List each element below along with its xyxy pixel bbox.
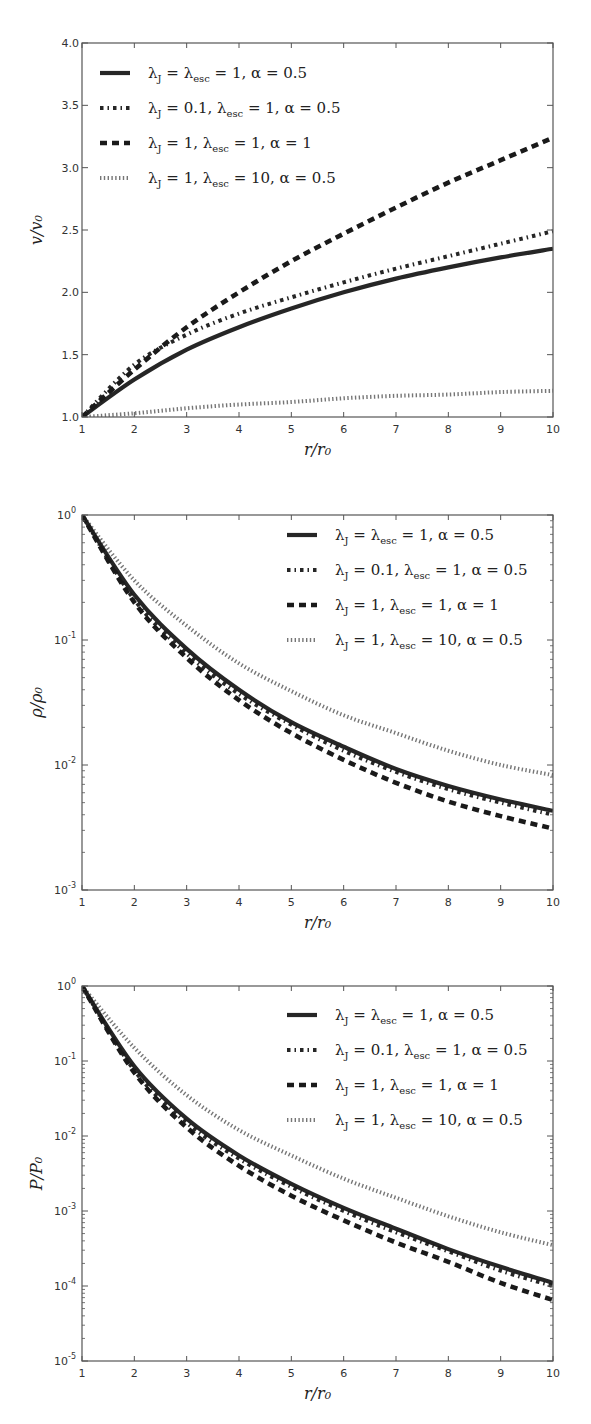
x-tick-label: 3 [183, 1367, 190, 1380]
density-chart: 12345678910r/r₀10010-110-210-3ρ/ρ₀λJ = λ… [0, 480, 591, 940]
x-axis-label: r/r₀ [304, 1384, 332, 1403]
y-tick-label: 10-2 [54, 756, 76, 772]
x-tick-label: 2 [131, 423, 138, 436]
x-tick-label: 5 [288, 1367, 295, 1380]
x-tick-label: 8 [445, 1367, 452, 1380]
legend-label: λJ = 1, λesc = 1, α = 1 [335, 1076, 499, 1096]
curve-dashed [82, 986, 553, 1300]
x-tick-label: 5 [288, 896, 295, 909]
x-tick-label: 6 [340, 423, 347, 436]
curve-dotted [82, 391, 553, 417]
x-tick-label: 10 [546, 1367, 560, 1380]
x-tick-label: 7 [393, 1367, 400, 1380]
y-tick-label: 10-2 [54, 1127, 76, 1143]
x-tick-label: 3 [183, 896, 190, 909]
y-tick-label: 10-1 [54, 1052, 76, 1068]
y-tick-label: 10-1 [54, 631, 76, 647]
x-tick-label: 7 [393, 423, 400, 436]
x-tick-label: 2 [131, 896, 138, 909]
x-tick-label: 7 [393, 896, 400, 909]
velocity-plot-svg: 12345678910r/r₀1.01.52.02.53.03.54.0v/v₀… [0, 0, 591, 480]
legend-label: λJ = λesc = 1, α = 0.5 [335, 526, 494, 546]
legend-label: λJ = 1, λesc = 1, α = 1 [148, 134, 312, 154]
x-tick-label: 1 [79, 1367, 86, 1380]
y-axis: 10010-110-210-310-410-5P/P₀ [27, 977, 553, 1368]
y-axis-label: ρ/ρ₀ [27, 687, 46, 719]
y-tick-label: 10-3 [54, 1202, 76, 1218]
curve-solid [82, 249, 553, 417]
legend-label: λJ = 1, λesc = 10, α = 0.5 [335, 1111, 523, 1131]
x-tick-label: 8 [445, 423, 452, 436]
x-tick-label: 5 [288, 423, 295, 436]
y-tick-label: 4.0 [62, 37, 80, 50]
legend-label: λJ = λesc = 1, α = 0.5 [335, 1006, 494, 1026]
y-tick-label: 2.5 [62, 224, 80, 237]
legend-label: λJ = 1, λesc = 1, α = 1 [335, 596, 499, 616]
y-tick-label: 1.0 [62, 411, 80, 424]
x-tick-label: 9 [497, 1367, 504, 1380]
x-tick-label: 4 [236, 423, 243, 436]
x-tick-label: 1 [79, 896, 86, 909]
x-tick-label: 4 [236, 896, 243, 909]
velocity-chart: 12345678910r/r₀1.01.52.02.53.03.54.0v/v₀… [0, 0, 591, 480]
y-tick-label: 10-4 [54, 1277, 76, 1293]
x-tick-label: 6 [340, 1367, 347, 1380]
x-tick-label: 6 [340, 896, 347, 909]
x-tick-label: 3 [183, 423, 190, 436]
legend: λJ = λesc = 1, α = 0.5λJ = 0.1, λesc = 1… [287, 1006, 527, 1131]
x-tick-label: 8 [445, 896, 452, 909]
pressure-chart: 12345678910r/r₀10010-110-210-310-410-5P/… [0, 940, 591, 1424]
curve-solid [82, 986, 553, 1283]
curve-solid [82, 515, 553, 811]
legend-label: λJ = λesc = 1, α = 0.5 [148, 64, 307, 84]
legend: λJ = λesc = 1, α = 0.5λJ = 0.1, λesc = 1… [287, 526, 527, 651]
y-tick-label: 1.5 [62, 349, 80, 362]
curve-dashdot [82, 986, 553, 1286]
x-axis-label: r/r₀ [304, 913, 332, 932]
x-axis-label: r/r₀ [304, 440, 332, 459]
x-tick-label: 1 [79, 423, 86, 436]
pressure-plot-svg: 12345678910r/r₀10010-110-210-310-410-5P/… [0, 940, 591, 1424]
x-tick-label: 2 [131, 1367, 138, 1380]
y-tick-label: 10-3 [54, 881, 76, 897]
x-tick-label: 10 [546, 423, 560, 436]
y-tick-label: 3.0 [62, 162, 80, 175]
y-axis-label: P/P₀ [27, 1156, 46, 1191]
legend-label: λJ = 0.1, λesc = 1, α = 0.5 [335, 561, 527, 581]
legend-label: λJ = 0.1, λesc = 1, α = 0.5 [335, 1041, 527, 1061]
y-tick-label: 3.5 [62, 99, 80, 112]
x-tick-label: 10 [546, 896, 560, 909]
y-tick-label: 2.0 [62, 286, 80, 299]
legend-label: λJ = 1, λesc = 10, α = 0.5 [148, 169, 336, 189]
y-axis-label: v/v₀ [27, 214, 46, 244]
curves-group [82, 986, 553, 1300]
legend-label: λJ = 0.1, λesc = 1, α = 0.5 [148, 99, 340, 119]
legend: λJ = λesc = 1, α = 0.5λJ = 0.1, λesc = 1… [100, 64, 340, 189]
y-axis: 1.01.52.02.53.03.54.0v/v₀ [27, 37, 553, 424]
x-tick-label: 9 [497, 423, 504, 436]
legend-label: λJ = 1, λesc = 10, α = 0.5 [335, 631, 523, 651]
y-tick-label: 100 [57, 506, 76, 522]
x-tick-label: 9 [497, 896, 504, 909]
y-tick-label: 100 [57, 977, 76, 993]
density-plot-svg: 12345678910r/r₀10010-110-210-3ρ/ρ₀λJ = λ… [0, 480, 591, 940]
curve-dashdot [82, 515, 553, 815]
x-tick-label: 4 [236, 1367, 243, 1380]
y-tick-label: 10-5 [54, 1352, 76, 1368]
